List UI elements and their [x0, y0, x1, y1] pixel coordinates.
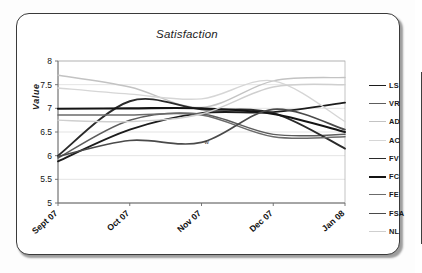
legend-label: VR	[389, 99, 400, 108]
legend-label: LS	[389, 81, 399, 90]
legend-label: FV	[389, 154, 399, 163]
series-line-nl	[58, 84, 345, 122]
legend-label: FC	[389, 172, 399, 181]
legend-item-ad[interactable]: AD	[369, 113, 417, 131]
legend-item-fc[interactable]: FC	[369, 167, 417, 185]
y-tick-label: 7	[47, 103, 52, 113]
chart-card: Satisfaction Value 55.566.577.58 Sept 07…	[16, 13, 400, 255]
y-tick-label: 6.5	[40, 127, 52, 137]
x-axis-tick-labels: Sept 07Oct 07Nov 07Dec 07Jan 08	[30, 208, 347, 236]
legend-item-ls[interactable]: LS	[369, 76, 417, 94]
legend-item-ac[interactable]: AC	[369, 131, 417, 149]
legend-swatch-fc	[369, 176, 386, 178]
legend-item-fv[interactable]: FV	[369, 149, 417, 167]
legend-label: AC	[389, 136, 400, 145]
y-tick-label: 5.5	[40, 174, 52, 184]
legend-label: FSA	[389, 209, 404, 218]
series-line-fc	[58, 108, 345, 132]
y-tick-label: 7.5	[40, 80, 52, 90]
x-tick-label: Oct 07	[105, 208, 131, 233]
line-chart-plot: 55.566.577.58 Sept 07Oct 07Nov 07Dec 07J…	[17, 14, 401, 256]
legend-item-nl[interactable]: NL	[369, 222, 417, 240]
x-tick-label: Jan 08	[320, 208, 347, 233]
legend-item-fsa[interactable]: FSA	[369, 204, 417, 222]
y-tick-label: 8	[47, 56, 52, 66]
legend-swatch-fe	[369, 194, 386, 195]
legend-label: NL	[389, 227, 399, 236]
series-lines-group	[58, 75, 345, 161]
legend-item-fe[interactable]: FE	[369, 186, 417, 204]
x-tick-label: Sept 07	[30, 208, 60, 236]
legend-swatch-ac	[369, 140, 386, 141]
legend-label: FE	[389, 190, 399, 199]
plot-frame	[55, 61, 345, 206]
chart-annotations: w	[204, 139, 210, 145]
y-tick-label: 6	[47, 151, 52, 161]
x-tick-label: Dec 07	[247, 208, 274, 234]
chart-legend: LSVRADACFVFCFEFSANL	[369, 76, 417, 241]
legend-swatch-ad	[369, 121, 386, 122]
y-axis-tick-labels: 55.566.577.58	[40, 56, 52, 208]
x-tick-label: Nov 07	[175, 208, 203, 234]
y-tick-label: 5	[47, 198, 52, 208]
chart-annotation-label: w	[204, 139, 210, 145]
legend-swatch-fv	[369, 158, 386, 159]
legend-swatch-ls	[369, 85, 386, 86]
legend-item-vr[interactable]: VR	[369, 94, 417, 112]
legend-swatch-vr	[369, 103, 386, 104]
legend-swatch-fsa	[369, 213, 386, 214]
legend-swatch-nl	[369, 231, 386, 232]
legend-label: AD	[389, 117, 400, 126]
